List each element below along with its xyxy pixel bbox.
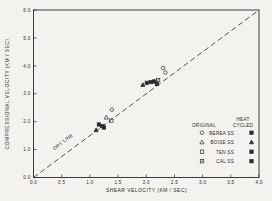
y-tick-label: 0.0 [23, 175, 30, 180]
x-tick-label: 0.0 [30, 180, 37, 185]
data-point-berea-ss-original [110, 108, 114, 112]
data-point-cal-ss-heat-cycled [102, 126, 105, 129]
dry-line-label: DRY LINE [52, 133, 74, 151]
legend-heat-marker [250, 160, 253, 163]
scatter-figure: 0.00.51.01.52.02.53.03.54.00.01.02.03.04… [0, 0, 272, 201]
y-tick-label: 4.0 [23, 64, 30, 69]
y-tick-label: 1.0 [23, 147, 30, 152]
legend-heat-marker [249, 140, 253, 144]
y-tick-label: 3.0 [23, 91, 30, 96]
y-axis-label: COMPRESSIONAL VELOCITY (KM / SEC) [4, 14, 10, 174]
legend-row-label: BOISE SS [211, 140, 234, 145]
x-tick-label: 1.0 [86, 180, 93, 185]
x-axis-label: SHEAR VELOCITY (KM / SEC) [34, 187, 259, 193]
legend-header-cycled: CYCLED [233, 123, 254, 128]
y-tick-label: 2.0 [23, 119, 30, 124]
legend-original-marker [200, 131, 204, 135]
data-point-berea-ss-original [164, 71, 168, 75]
data-point-boise-ss-original [104, 115, 108, 119]
legend-heat-marker [250, 131, 253, 134]
x-tick-label: 3.0 [199, 180, 206, 185]
legend-row-label: TEN SS [216, 150, 234, 155]
legend-row-label: BEREA SS [209, 131, 234, 136]
x-tick-label: 4.0 [255, 180, 262, 185]
legend-header-heat: HEAT [237, 117, 250, 122]
data-point-berea-ss-original [161, 66, 165, 70]
data-point-boise-ss-heat-cycled [141, 83, 145, 87]
y-tick-label: 5.0 [23, 36, 30, 41]
legend-original-marker [200, 140, 204, 144]
y-tick-label: 6.0 [23, 8, 30, 13]
x-tick-label: 2.0 [143, 180, 150, 185]
x-tick-label: 1.5 [114, 180, 121, 185]
x-tick-label: 0.5 [58, 180, 65, 185]
legend-original-marker-slash [200, 160, 203, 163]
chart-canvas: 0.00.51.01.52.02.53.03.54.00.01.02.03.04… [0, 0, 272, 201]
data-point-berea-ss-heat-cycled [97, 123, 100, 126]
data-point-cal-ss-heat-cycled [155, 82, 158, 85]
legend-original-marker [200, 150, 203, 153]
data-point-ten-ss-heat-cycled [149, 80, 152, 83]
x-tick-label: 2.5 [171, 180, 178, 185]
legend-heat-marker [250, 150, 253, 153]
data-point-berea-ss-heat-cycled [145, 81, 148, 84]
x-tick-label: 3.5 [227, 180, 234, 185]
data-point-cal-ss-original-slash [156, 78, 159, 81]
legend-header-original: ORIGINAL [192, 123, 216, 128]
legend-row-label: CAL SS [216, 159, 234, 164]
